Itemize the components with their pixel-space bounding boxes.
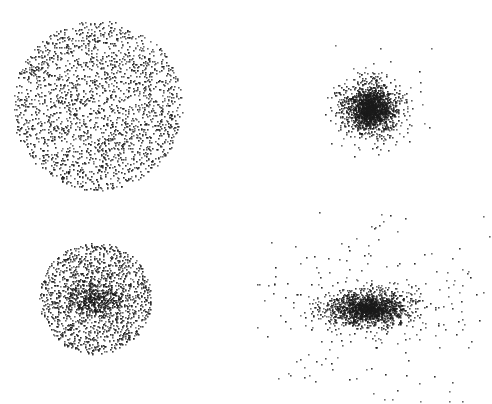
scatter-plot-canvas (0, 0, 492, 404)
